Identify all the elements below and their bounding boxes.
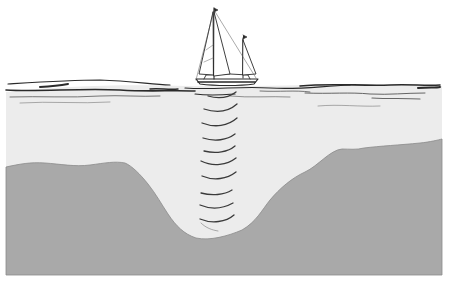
echo-sounding-illustration xyxy=(0,0,449,283)
